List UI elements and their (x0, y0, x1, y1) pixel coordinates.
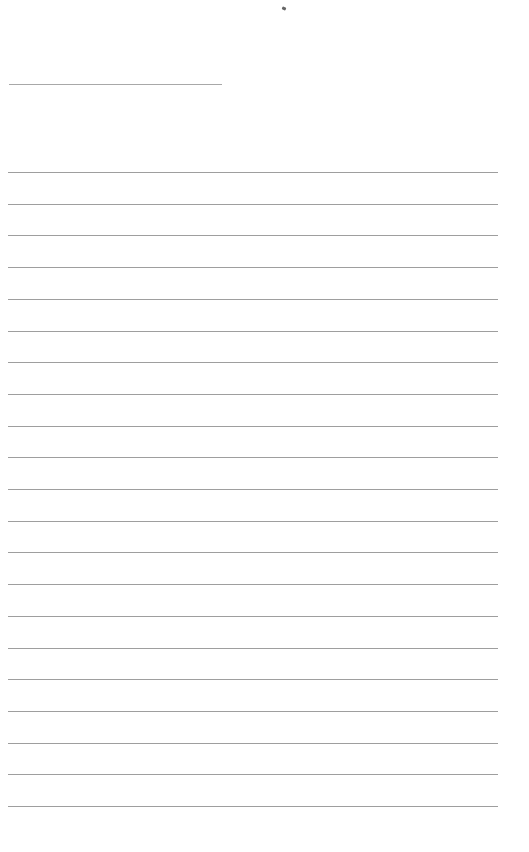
ruled-line (8, 711, 498, 712)
ruled-line (8, 489, 498, 490)
ruled-line (8, 521, 498, 522)
ruled-line (8, 616, 498, 617)
ruled-line (8, 362, 498, 363)
ruled-line (8, 679, 498, 680)
ruled-line (8, 457, 498, 458)
ruled-line (8, 204, 498, 205)
header-short-line (9, 84, 222, 85)
ruled-line (8, 648, 498, 649)
ruled-line (8, 299, 498, 300)
ruled-line (8, 394, 498, 395)
ruled-line (8, 743, 498, 744)
ruled-line (8, 235, 498, 236)
ruled-line (8, 806, 498, 807)
ruled-line (8, 267, 498, 268)
scan-mark (282, 6, 287, 10)
ruled-line (8, 774, 498, 775)
ruled-line (8, 552, 498, 553)
ruled-line (8, 331, 498, 332)
ruled-line (8, 584, 498, 585)
ruled-line (8, 172, 498, 173)
ruled-line (8, 426, 498, 427)
